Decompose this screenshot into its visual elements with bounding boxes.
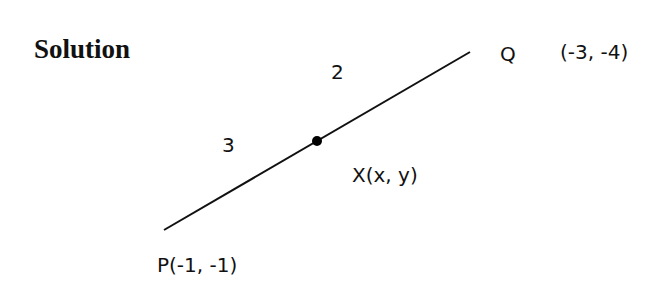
point-x-label: X(x, y) (352, 163, 418, 187)
ratio-xq-label: 2 (331, 60, 344, 84)
point-q-label: Q (500, 42, 516, 66)
point-q-coords: (-3, -4) (560, 40, 628, 64)
point-p-label: P(-1, -1) (157, 253, 237, 277)
point-x-dot (312, 136, 322, 146)
ratio-px-label: 3 (222, 133, 235, 157)
